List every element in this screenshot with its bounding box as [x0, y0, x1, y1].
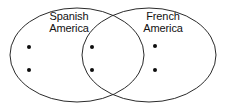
region-dot: [27, 68, 31, 72]
venn-diagram: Spanish America French America: [0, 0, 226, 112]
set-label-line-1: French: [132, 10, 194, 22]
set-label-line-2: America: [38, 22, 100, 34]
region-dot: [153, 68, 157, 72]
region-dot: [90, 45, 94, 49]
region-dot: [27, 45, 31, 49]
region-dots-intersection: [90, 45, 94, 72]
set-label-line-2: America: [132, 22, 194, 34]
region-dot: [153, 44, 157, 48]
set-label-french-america: French America: [132, 10, 194, 34]
region-dots-spanish-only: [27, 45, 31, 72]
region-dots-french-only: [153, 44, 157, 72]
set-label-line-1: Spanish: [38, 10, 100, 22]
set-label-spanish-america: Spanish America: [38, 10, 100, 34]
region-dot: [90, 68, 94, 72]
